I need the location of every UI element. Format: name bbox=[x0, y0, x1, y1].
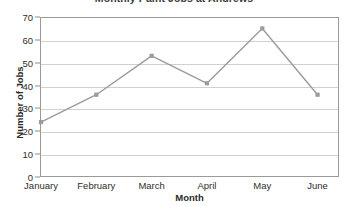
data-point-marker bbox=[205, 81, 209, 85]
x-tick-label: February bbox=[77, 180, 115, 191]
line-chart: Monthly Paint Jobs at Andrews Number of … bbox=[0, 0, 348, 206]
data-point-marker bbox=[260, 26, 264, 30]
x-tick-label: January bbox=[24, 180, 58, 191]
data-point-marker bbox=[315, 93, 319, 97]
x-tick-label: March bbox=[138, 180, 164, 191]
data-point-marker bbox=[39, 120, 43, 124]
x-tick-label: May bbox=[253, 180, 271, 191]
series-markers bbox=[39, 26, 320, 124]
series-line bbox=[41, 28, 318, 122]
x-tick-label: June bbox=[307, 180, 328, 191]
x-tick-label: April bbox=[197, 180, 216, 191]
data-series-layer bbox=[0, 0, 348, 206]
data-point-marker bbox=[150, 54, 154, 58]
x-axis-title: Month bbox=[40, 192, 339, 203]
data-point-marker bbox=[94, 93, 98, 97]
